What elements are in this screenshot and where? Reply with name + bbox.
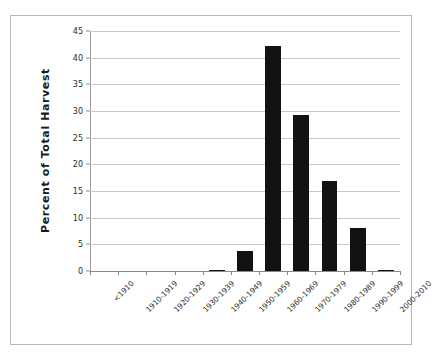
y-tick-label: 20 <box>73 160 83 169</box>
y-tick-label: 45 <box>73 27 83 36</box>
bar[interactable] <box>209 270 225 271</box>
bar-slot: 1980-1989 <box>315 31 343 271</box>
x-tick-mark <box>118 271 119 275</box>
y-tick-label: 0 <box>78 267 83 276</box>
y-tick-label: 25 <box>73 133 83 142</box>
gridline-0 <box>90 271 400 272</box>
bars-group: <19101910-19191920-19291930-19391940-194… <box>90 31 400 271</box>
plot-area: 051015202530354045 <19101910-19191920-19… <box>90 31 400 271</box>
x-tick-label: <1910 <box>112 279 136 303</box>
bar[interactable] <box>293 115 309 271</box>
x-tick-mark <box>344 271 345 275</box>
y-tick-label: 40 <box>73 53 83 62</box>
bar[interactable] <box>265 46 281 271</box>
bar-slot: 2000-2010 <box>372 31 400 271</box>
bar-slot: <1910 <box>90 31 118 271</box>
bar-slot: 1930-1939 <box>175 31 203 271</box>
x-tick-mark <box>203 271 204 275</box>
bar-slot: 1920-1929 <box>146 31 174 271</box>
bar-slot: 1950-1959 <box>231 31 259 271</box>
x-tick-mark <box>175 271 176 275</box>
bar[interactable] <box>378 270 394 271</box>
y-tick-label: 10 <box>73 213 83 222</box>
y-tick-label: 35 <box>73 80 83 89</box>
bar-slot: 1960-1969 <box>259 31 287 271</box>
x-tick-mark <box>287 271 288 275</box>
bar[interactable] <box>350 228 366 271</box>
bar[interactable] <box>237 251 253 271</box>
bar[interactable] <box>322 181 338 271</box>
x-tick-mark <box>90 271 91 275</box>
y-tick-label: 30 <box>73 106 83 115</box>
bar-slot: 1940-1949 <box>203 31 231 271</box>
bar-slot: 1990-1999 <box>344 31 372 271</box>
bar-slot: 1910-1919 <box>118 31 146 271</box>
y-tick-label: 15 <box>73 186 83 195</box>
x-tick-mark <box>146 271 147 275</box>
y-tick-label: 5 <box>78 240 83 249</box>
bar-slot: 1970-1979 <box>287 31 315 271</box>
x-tick-mark <box>400 271 401 275</box>
x-tick-mark <box>231 271 232 275</box>
y-axis-title: Percent of Total Harvest <box>39 51 52 251</box>
x-tick-mark <box>259 271 260 275</box>
x-tick-mark <box>372 271 373 275</box>
x-tick-mark <box>315 271 316 275</box>
chart-frame: Percent of Total Harvest 051015202530354… <box>10 15 412 345</box>
